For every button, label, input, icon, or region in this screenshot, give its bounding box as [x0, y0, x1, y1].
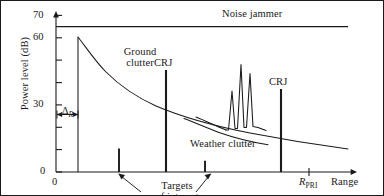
- x-tick-label-rpri-sub: PRI: [306, 181, 318, 190]
- x-tick-label-0: 0: [52, 176, 57, 187]
- y-tick-label-70: 70: [33, 9, 44, 20]
- ground-clutter-label-line1: Ground: [110, 46, 170, 57]
- crj-label-right: CRJ: [269, 76, 287, 87]
- figure-border: [1, 1, 384, 196]
- y-tick-label-0: 0: [40, 165, 45, 176]
- targets-label-line2: of interest: [139, 191, 215, 196]
- x-tick-label-rpri: RPRI: [299, 176, 318, 190]
- targets-label-line1: Targets: [139, 180, 215, 191]
- x-axis-title: Range: [331, 176, 358, 187]
- weather-clutter-label: Weather clutter: [190, 138, 256, 149]
- crj-label-left: CRJ: [154, 57, 172, 68]
- y-axis-title: Power level (dB): [19, 32, 30, 116]
- delta-r-label-sub: R: [69, 110, 74, 119]
- delta-r-label: ΔR: [62, 106, 73, 119]
- radar-power-range-chart: [0, 0, 384, 196]
- targets-of-interest-label: Targets of interest: [139, 180, 215, 196]
- y-tick-label-60: 60: [33, 31, 44, 42]
- noise-jammer-label: Noise jammer: [222, 8, 282, 19]
- y-tick-label-30: 30: [33, 98, 44, 109]
- figure-canvas: Power level (dB) 70 60 30 0 0 RPRI Range…: [0, 0, 384, 196]
